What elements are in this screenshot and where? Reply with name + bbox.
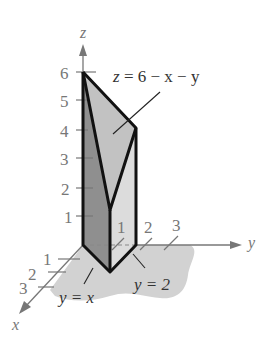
x-tick-2: 2: [28, 265, 37, 284]
surface-equation-rhs: 6 − x − y: [138, 67, 200, 86]
y-tick-3: 3: [172, 216, 181, 235]
z-tick-3: 3: [60, 150, 69, 169]
plane-y2-label: y = 2: [132, 275, 171, 294]
x-axis-label: x: [11, 316, 19, 333]
z-axis-arrow-icon: [79, 44, 87, 56]
x-tick-3: 3: [19, 279, 28, 298]
x-tick-1: 1: [43, 250, 52, 269]
plane-yx-label: y = x: [57, 288, 95, 307]
surface-equation: z = 6 − x − y: [112, 67, 200, 86]
y-axis-label: y: [246, 234, 256, 252]
z-axis-label: z: [79, 24, 87, 41]
z-tick-6: 6: [60, 64, 69, 83]
diagram-canvas: z 6 5 4 3 2 1 y 1 2 3 x 1 2 3: [0, 0, 267, 348]
z-tick-1: 1: [64, 208, 73, 227]
z-tick-5: 5: [60, 92, 69, 111]
z-tick-2: 2: [61, 180, 70, 199]
y-axis-arrow-icon: [230, 241, 242, 249]
y-tick-1: 1: [117, 218, 126, 237]
z-tick-4: 4: [60, 122, 69, 141]
y-tick-2: 2: [144, 218, 153, 237]
